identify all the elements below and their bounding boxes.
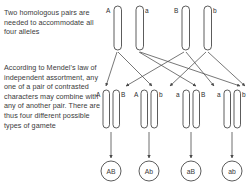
gamete-chrom-2b [151, 90, 158, 128]
parent-allele-label-B: B [174, 8, 178, 15]
gamete-genotype-4: ab [222, 168, 242, 175]
gamete-genotype-3: aB [181, 168, 201, 175]
gamete-row-group-4 [224, 90, 241, 128]
gamete-chrom-3a [183, 90, 190, 128]
gamete-circles [101, 161, 242, 181]
gamete-chrom-4a [224, 90, 231, 128]
gamete-chrom-3b [193, 90, 200, 128]
gamete-chrom-1b [113, 90, 120, 128]
figure-canvas: Two homologous pairs are needed to accom… [0, 0, 252, 186]
gamete-row-group-1 [103, 90, 120, 128]
gamete-row-label-3-2: B [201, 92, 205, 99]
gamete-row-label-1-2: B [121, 92, 125, 99]
segregation-arrows [106, 52, 245, 86]
arrow-A-to-group1 [106, 52, 117, 86]
arrow-a-to-group3 [139, 52, 196, 86]
gamete-row-label-2-2: b [159, 92, 163, 99]
gamete-formation-arrows [111, 132, 232, 158]
gamete-chrom-4b [234, 90, 241, 128]
parent-allele-label-b: b [213, 8, 217, 15]
gamete-genotype-2: Ab [139, 168, 159, 175]
gamete-chrom-2a [141, 90, 148, 128]
gamete-row-group-3 [183, 90, 200, 128]
gamete-row-label-2-1: A [134, 92, 138, 99]
parent-allele-label-a: a [145, 8, 149, 15]
gamete-genotype-1: AB [101, 168, 121, 175]
parent-chromosome-b [204, 6, 212, 50]
gamete-row-group-2 [141, 90, 158, 128]
gamete-chrom-1a [103, 90, 110, 128]
gamete-row-label-4-2: b [242, 92, 246, 99]
gamete-row-label-3-1: a [176, 92, 180, 99]
diagram-vector-layer [0, 0, 252, 186]
parent-allele-label-A: A [106, 8, 110, 15]
parent-chromosome-A [114, 6, 122, 50]
arrow-b-to-group4 [208, 52, 245, 86]
parent-chromosome-B [182, 6, 190, 50]
gamete-row-label-1-1: A [96, 92, 100, 99]
parent-chromosome-a [136, 6, 144, 50]
inheritance-diagram: A a B b A B A b a B a b AB Ab aB ab [0, 0, 252, 186]
gamete-row-label-4-1: a [217, 92, 221, 99]
